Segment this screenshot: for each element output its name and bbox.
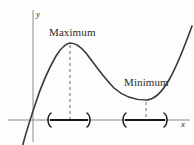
x-axis-label: x (181, 119, 185, 129)
minimum-label: Minimum (124, 76, 169, 88)
maximum-label: Maximum (49, 26, 96, 38)
y-axis-label: y (36, 9, 40, 19)
interval-around-minimum (123, 113, 167, 127)
graph-canvas (0, 0, 194, 145)
interval-around-maximum (48, 113, 90, 127)
calculus-extrema-figure: Maximum Minimum y x (0, 0, 194, 145)
